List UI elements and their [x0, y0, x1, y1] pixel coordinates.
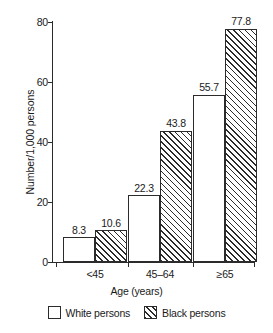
bar-white-45-64[interactable]	[128, 195, 160, 262]
bar-group-gte65: 55.7 77.8	[193, 22, 257, 262]
y-tick-label-40: 40	[24, 137, 48, 147]
bar-black-45-64[interactable]	[160, 131, 192, 262]
bar-label-white-gte65: 55.7	[189, 82, 229, 93]
y-tick-label-60: 60	[24, 77, 48, 87]
plot-area: 8.3 10.6 22.3 43.8 55.7 77.8	[53, 22, 255, 262]
x-tick-mark-2	[193, 263, 194, 267]
legend-label-black-persons: Black persons	[162, 307, 225, 319]
x-category-label-gte65: ≥65	[190, 268, 260, 280]
bar-group-45-64: 22.3 43.8	[128, 22, 192, 262]
x-tick-mark-1	[128, 263, 129, 267]
y-axis-tick-labels: 80 60 40 20 0	[24, 0, 48, 333]
y-tick-label-0: 0	[24, 257, 48, 267]
x-tick-mark-end	[254, 263, 255, 267]
legend-item-black-persons[interactable]: Black persons	[144, 306, 225, 319]
bar-group-lt45: 8.3 10.6	[63, 22, 127, 262]
x-category-label-lt45: <45	[60, 268, 130, 280]
bar-white-gte65[interactable]	[193, 95, 225, 262]
x-tick-mark-start	[56, 263, 57, 267]
legend-label-white-persons: White persons	[66, 307, 131, 319]
bar-chart-figure: Number/1,000 persons 80 60 40 20 0 8.3 1…	[0, 0, 273, 333]
empty-square-icon	[48, 306, 61, 319]
y-tick-label-80: 80	[24, 17, 48, 27]
x-category-label-45-64: 45–64	[125, 268, 195, 280]
chart-legend: White persons Black persons	[0, 306, 273, 319]
bar-white-lt45[interactable]	[63, 237, 95, 262]
hatched-square-icon	[144, 306, 157, 319]
bar-label-black-45-64: 43.8	[156, 118, 196, 129]
bar-label-white-45-64: 22.3	[124, 183, 164, 194]
bar-black-lt45[interactable]	[95, 230, 127, 262]
x-axis-line	[52, 262, 255, 263]
y-tick-label-20: 20	[24, 197, 48, 207]
bar-label-black-lt45: 10.6	[91, 218, 131, 229]
x-axis-label: Age (years)	[0, 285, 273, 297]
bar-label-black-gte65: 77.8	[221, 16, 261, 27]
bar-black-gte65[interactable]	[225, 29, 257, 262]
legend-item-white-persons[interactable]: White persons	[48, 306, 131, 319]
